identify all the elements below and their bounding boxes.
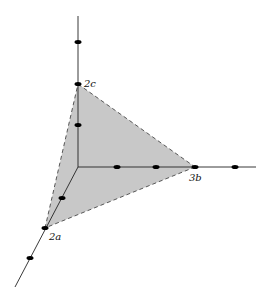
tick-dot <box>153 165 160 169</box>
tick-dot <box>114 165 121 169</box>
tick-dot-2a <box>42 226 49 230</box>
label-3b: 3b <box>189 172 202 183</box>
tick-dot <box>232 165 239 169</box>
shaded-plane <box>45 84 195 228</box>
tick-dot-2c <box>75 82 82 86</box>
label-2c: 2c <box>83 78 96 89</box>
plane-intercept-diagram: 2c 3b 2a <box>0 0 271 301</box>
tick-dot-3b <box>192 165 199 169</box>
label-2a: 2a <box>48 231 61 242</box>
tick-dot <box>59 196 66 200</box>
tick-dot <box>75 40 82 44</box>
tick-dot <box>27 256 34 260</box>
tick-dot <box>75 123 82 127</box>
